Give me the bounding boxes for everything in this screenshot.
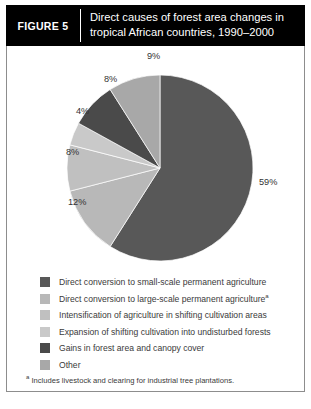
legend-swatch-icon	[40, 360, 50, 370]
figure-panel: FIGURE 5 Direct causes of forest area ch…	[0, 0, 311, 409]
pie-label-small-scale: 59%	[259, 177, 277, 187]
legend-item: Gains in forest area and canopy cover	[40, 341, 290, 358]
legend-swatch-icon	[40, 294, 50, 304]
figure-title: Direct causes of forest area changes in …	[81, 5, 305, 46]
legend-item: Intensification of agriculture in shifti…	[40, 308, 290, 325]
legend-item: Other	[40, 358, 290, 375]
legend-swatch-icon	[40, 310, 50, 320]
figure-title-line-1: Direct causes of forest area changes in	[90, 10, 299, 25]
legend-item: Direct conversion to large-scale permane…	[40, 292, 290, 309]
legend-item-text: Direct conversion to large-scale permane…	[59, 294, 265, 304]
legend-swatch-icon	[40, 277, 50, 287]
figure-footnote: a Includes livestock and clearing for in…	[26, 376, 234, 385]
legend-swatch-icon	[40, 327, 50, 337]
legend-item-label: Direct conversion to large-scale permane…	[59, 292, 269, 305]
figure-number: FIGURE 5	[6, 5, 80, 46]
pie-slice-group	[67, 75, 253, 261]
legend-item-label: Expansion of shifting cultivation into u…	[59, 325, 271, 338]
legend-item-label: Intensification of agriculture in shifti…	[59, 308, 267, 321]
pie-label-large-scale: 12%	[68, 197, 86, 207]
pie-chart: 9% 8% 4% 8% 12% 59%	[0, 46, 311, 278]
pie-label-intensification: 8%	[66, 147, 79, 157]
footnote-text: Includes livestock and clearing for indu…	[31, 376, 234, 385]
figure-title-line-2: tropical African countries, 1990–2000	[90, 25, 299, 40]
chart-legend: Direct conversion to small-scale permane…	[40, 275, 290, 375]
legend-item: Expansion of shifting cultivation into u…	[40, 325, 290, 342]
pie-label-gains: 8%	[104, 74, 117, 84]
legend-swatch-icon	[40, 343, 50, 353]
legend-footnote-marker: a	[265, 293, 268, 299]
pie-chart-svg	[0, 46, 311, 278]
pie-label-expansion: 4%	[76, 106, 89, 116]
legend-item-label: Direct conversion to small-scale permane…	[59, 275, 266, 288]
legend-item: Direct conversion to small-scale permane…	[40, 275, 290, 292]
footnote-marker: a	[26, 374, 29, 380]
legend-item-label: Other	[59, 358, 81, 371]
legend-item-label: Gains in forest area and canopy cover	[59, 341, 204, 354]
pie-label-other: 9%	[147, 51, 160, 61]
figure-header: FIGURE 5 Direct causes of forest area ch…	[6, 5, 305, 46]
